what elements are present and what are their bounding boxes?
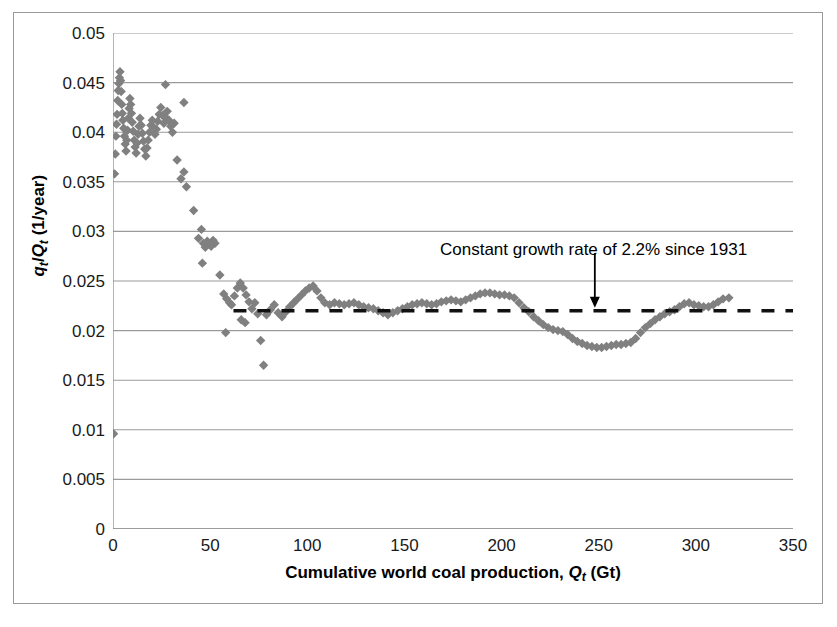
y-axis-title-separator: /	[29, 257, 48, 262]
data-point-10	[115, 67, 124, 76]
data-point-82	[221, 328, 230, 337]
y-tick-label-8: 0.04	[72, 124, 105, 141]
data-point-95	[259, 361, 268, 370]
annotation-label: Constant growth rate of 2.2% since 1931	[440, 240, 747, 260]
y-tick-label-6: 0.03	[72, 223, 105, 240]
data-point-194	[724, 293, 733, 302]
data-point-31	[131, 148, 140, 157]
y-axis-title-subscript2: t	[37, 240, 51, 244]
x-tick-label-7: 350	[779, 537, 807, 554]
y-axis-title-symbol1: q	[29, 266, 48, 276]
x-axis-title-suffix: (Gt)	[586, 563, 621, 582]
x-tick-label-1: 50	[201, 537, 220, 554]
x-tick-label-3: 150	[390, 537, 418, 554]
y-axis-title-subscript1: t	[37, 262, 51, 266]
y-axis-tick-labels: 00.0050.010.0150.020.0250.030.0350.040.0…	[0, 33, 105, 529]
plot-area	[113, 33, 793, 529]
data-point-66	[189, 206, 198, 215]
y-axis-title: qt/Qt (1/year)	[29, 96, 50, 356]
x-axis-title-symbol: Q	[569, 563, 582, 582]
data-point-94	[256, 336, 265, 345]
data-point-62	[172, 155, 181, 164]
data-point-35	[135, 114, 144, 123]
x-axis-title: Cumulative world coal production, Qt (Gt…	[113, 563, 793, 584]
data-point-77	[215, 270, 224, 279]
x-tick-label-6: 300	[682, 537, 710, 554]
y-tick-label-5: 0.025	[62, 273, 105, 290]
data-point-60	[161, 80, 170, 89]
x-tick-label-2: 100	[293, 537, 321, 554]
data-point-1	[113, 169, 119, 178]
data-point-40	[141, 151, 150, 160]
data-point-19	[121, 146, 130, 155]
arrow-head	[590, 297, 600, 308]
y-tick-label-2: 0.01	[72, 421, 105, 438]
data-point-65	[182, 182, 191, 191]
x-tick-label-4: 200	[487, 537, 515, 554]
y-axis-title-symbol2: Q	[29, 244, 48, 257]
x-tick-label-5: 250	[585, 537, 613, 554]
x-axis-tick-labels: 050100150200250300350	[113, 537, 793, 561]
x-tick-label-0: 0	[108, 537, 117, 554]
y-tick-label-10: 0.05	[72, 25, 105, 42]
data-point-3	[113, 131, 121, 140]
y-tick-label-1: 0.005	[62, 471, 105, 488]
y-tick-label-3: 0.015	[62, 372, 105, 389]
horizontal-gridlines	[113, 33, 793, 529]
data-point-2	[113, 149, 120, 158]
y-tick-label-9: 0.045	[62, 74, 105, 91]
data-point-83	[230, 291, 239, 300]
y-axis-title-suffix: (1/year)	[29, 175, 48, 240]
data-point-76	[198, 258, 207, 267]
scatter-plot-svg	[113, 33, 793, 529]
chart-figure: 00.0050.010.0150.020.0250.030.0350.040.0…	[0, 0, 837, 627]
data-point-0	[113, 429, 118, 438]
x-axis-title-prefix: Cumulative world coal production,	[285, 563, 568, 582]
data-point-68	[197, 225, 206, 234]
y-tick-label-4: 0.02	[72, 322, 105, 339]
y-tick-label-0: 0	[96, 521, 105, 538]
data-point-61	[179, 98, 188, 107]
y-tick-label-7: 0.035	[62, 173, 105, 190]
